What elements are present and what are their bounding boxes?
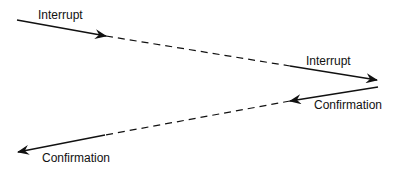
confirmation-arrow-solid-end bbox=[18, 135, 105, 152]
label-confirmation-end: Confirmation bbox=[42, 152, 110, 164]
confirmation-arrow-dashed bbox=[105, 101, 290, 135]
message-sequence-diagram bbox=[0, 0, 398, 172]
label-interrupt-start: Interrupt bbox=[38, 9, 83, 21]
label-interrupt-end: Interrupt bbox=[306, 55, 351, 67]
interrupt-arrow-solid-end bbox=[290, 66, 377, 80]
label-confirmation-start: Confirmation bbox=[314, 99, 382, 111]
interrupt-arrow-solid-start bbox=[17, 20, 106, 36]
interrupt-arrow-dashed bbox=[106, 36, 290, 66]
